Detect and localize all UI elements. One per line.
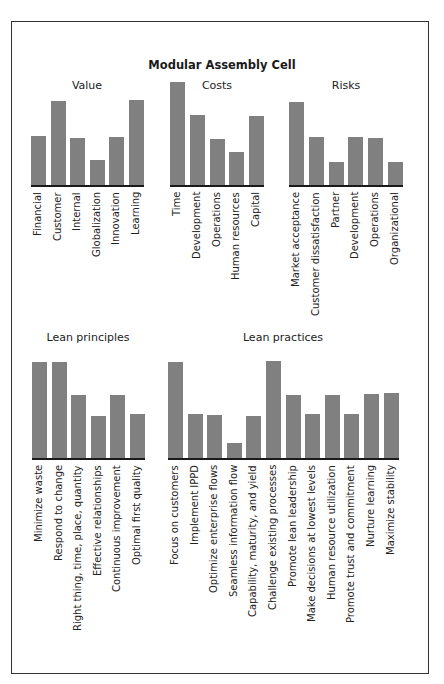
chart-title: Risks	[286, 79, 406, 92]
category-label: Operations	[211, 192, 222, 247]
category-label: Focus on customers	[169, 465, 180, 565]
bar-effective-relationships	[91, 416, 106, 458]
bar-promote-trust-and-commitment	[344, 414, 359, 458]
bar-capability-maturity-and-yield	[246, 416, 261, 458]
bar-operations	[368, 138, 383, 185]
category-label: Respond to change	[53, 465, 64, 561]
bar-learning	[129, 100, 144, 185]
bar-challenge-existing-processes	[266, 361, 281, 458]
bar-development	[348, 137, 363, 185]
bar-minimize-waste	[32, 362, 47, 458]
x-axis-baseline	[31, 185, 144, 187]
category-label: Optimize enterprise flows	[208, 465, 219, 593]
category-label: Market acceptance	[290, 192, 301, 287]
bar-innovation	[109, 137, 124, 185]
category-label: Learning	[130, 192, 141, 235]
category-label: Nurture learning	[365, 465, 376, 547]
category-label: Development	[349, 192, 360, 259]
x-axis-baseline	[32, 458, 145, 460]
chart-title: Lean principles	[28, 331, 148, 344]
bar-organizational	[388, 162, 403, 185]
category-label: Implement IPPD	[189, 465, 200, 545]
bar-capital	[249, 116, 264, 185]
bar-human-resources	[229, 152, 244, 185]
chart-title: Lean practices	[223, 331, 343, 344]
category-label: Development	[191, 192, 202, 259]
category-label: Continuous improvement	[111, 465, 122, 592]
bar-globalization	[90, 160, 105, 185]
category-label: Maximize stability	[385, 465, 396, 555]
bar-internal	[70, 138, 85, 185]
category-label: Financial	[32, 192, 43, 236]
bar-development	[190, 115, 205, 185]
bar-optimize-enterprise-flows	[207, 415, 222, 458]
category-label: Customer	[52, 192, 63, 241]
category-label: Organizational	[389, 192, 400, 265]
category-label: Customer dissatisfaction	[310, 192, 321, 316]
bar-time	[170, 82, 185, 185]
category-label: Human resource utilization	[326, 465, 337, 600]
category-label: Minimize waste	[33, 465, 44, 542]
category-label: Promote trust and commitment	[345, 465, 356, 623]
category-label: Operations	[369, 192, 380, 247]
category-label: Internal	[71, 192, 82, 231]
x-axis-baseline	[289, 185, 403, 187]
category-label: Right thing, time, place, quantity	[72, 465, 83, 631]
x-axis-baseline	[170, 185, 264, 187]
category-label: Make decisions at lowest levels	[306, 465, 317, 622]
bar-maximize-stability	[384, 393, 399, 458]
chart-title: Value	[27, 79, 147, 92]
category-label: Optimal first quality	[131, 465, 142, 565]
bar-customer-dissatisfaction	[309, 137, 324, 185]
bar-operations	[210, 139, 225, 185]
bar-seamless-information-flow	[227, 443, 242, 458]
category-label: Promote lean leadership	[287, 465, 298, 587]
bar-customer	[51, 101, 66, 185]
category-label: Capability, maturity, and yield	[247, 465, 258, 617]
bar-partner	[329, 162, 344, 185]
bar-financial	[31, 136, 46, 185]
bar-market-acceptance	[289, 102, 304, 185]
category-label: Effective relationships	[92, 465, 103, 576]
category-label: Partner	[330, 192, 341, 228]
category-label: Challenge existing processes	[267, 465, 278, 610]
bar-promote-lean-leadership	[286, 395, 301, 458]
category-label: Seamless information flow	[228, 465, 239, 597]
bar-implement-ippd	[188, 414, 203, 458]
category-label: Capital	[250, 192, 261, 227]
category-label: Time	[171, 192, 182, 216]
bar-continuous-improvement	[110, 395, 125, 458]
bar-human-resource-utilization	[325, 395, 340, 458]
bar-right-thing-time-place-quantity	[71, 395, 86, 458]
figure-title: Modular Assembly Cell	[0, 58, 444, 72]
category-label: Innovation	[110, 192, 121, 245]
bar-nurture-learning	[364, 394, 379, 458]
bar-focus-on-customers	[168, 362, 183, 458]
x-axis-baseline	[168, 458, 399, 460]
category-label: Globalization	[91, 192, 102, 257]
bar-make-decisions-at-lowest-levels	[305, 414, 320, 458]
bar-optimal-first-quality	[130, 414, 145, 458]
category-label: Human resources	[230, 192, 241, 280]
bar-respond-to-change	[52, 362, 67, 458]
